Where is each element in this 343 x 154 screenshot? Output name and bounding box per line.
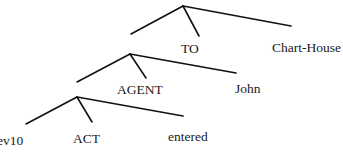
label-act: ACT bbox=[73, 131, 101, 146]
label-to: TO bbox=[181, 41, 199, 56]
edge-act-to-ev10 bbox=[26, 97, 77, 124]
edge-agent-to-agent-label bbox=[130, 54, 146, 78]
edge-root-to-to bbox=[183, 6, 199, 36]
tree-diagram: TO Chart-House AGENT John ev10 ACT enter… bbox=[0, 0, 343, 154]
edge-agent-to-john bbox=[130, 54, 236, 73]
edge-root-to-agent-node bbox=[131, 6, 183, 34]
edge-root-to-chart-house bbox=[183, 6, 291, 26]
label-entered: entered bbox=[168, 129, 208, 144]
label-john: John bbox=[235, 81, 261, 96]
label-chart-house: Chart-House bbox=[272, 40, 341, 55]
edge-agent-to-act-node bbox=[77, 54, 130, 82]
edge-act-to-act-label bbox=[77, 97, 92, 122]
edge-act-to-entered bbox=[77, 97, 183, 116]
node-act bbox=[26, 97, 183, 124]
label-ev10: ev10 bbox=[0, 133, 23, 148]
node-agent bbox=[77, 54, 236, 82]
label-agent: AGENT bbox=[117, 82, 163, 97]
node-root bbox=[131, 6, 291, 36]
